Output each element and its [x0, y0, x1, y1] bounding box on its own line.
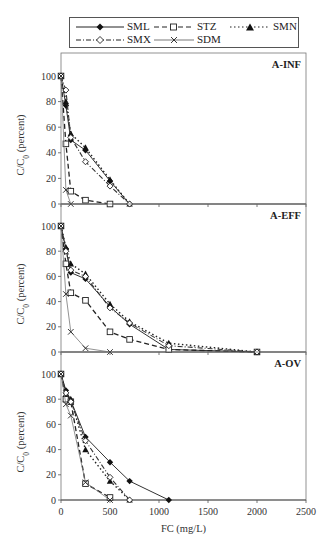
y-axis-label: C/C0 (percent): [15, 114, 31, 176]
data-point-marker: [107, 329, 113, 335]
y-tick-label: 60: [46, 271, 56, 282]
panel-label: A-EFF: [270, 210, 301, 221]
panel-a-inf: 020406080100C/C0 (percent)A-INF: [15, 53, 306, 210]
y-tick-label: 0: [51, 495, 56, 506]
series-stz: [58, 223, 260, 355]
data-point-marker: [68, 413, 74, 419]
data-point-marker: [68, 188, 74, 194]
y-tick-label: 80: [46, 96, 56, 107]
data-point-marker: [82, 446, 88, 452]
series-sdm: [58, 223, 113, 355]
x-axis-label: FC (mg/L): [161, 523, 207, 535]
y-tick-label: 80: [46, 394, 56, 405]
y-tick-label: 20: [46, 173, 56, 184]
y-axis-label: C/C0 (percent): [15, 263, 31, 325]
series-line: [61, 226, 110, 352]
series-line: [61, 226, 257, 352]
y-tick-label: 40: [46, 444, 56, 455]
panel-label: A-OV: [274, 358, 301, 369]
data-point-marker: [127, 337, 133, 343]
x-tick-label: 2000: [247, 506, 267, 517]
data-point-marker: [166, 497, 172, 503]
y-tick-label: 20: [46, 469, 56, 480]
data-point-marker: [107, 474, 113, 480]
x-tick-label: 0: [59, 506, 64, 517]
series-smn: [58, 223, 260, 355]
y-tick-label: 0: [51, 347, 56, 358]
series-line: [61, 226, 257, 352]
data-point-marker: [68, 290, 74, 296]
series-line: [61, 226, 257, 352]
data-point-marker: [107, 176, 113, 182]
data-point-marker: [63, 98, 69, 104]
series-smx: [58, 371, 133, 503]
series-line: [61, 374, 130, 500]
y-tick-label: 40: [46, 296, 56, 307]
y-tick-label: 100: [41, 369, 56, 380]
plot-frame: [61, 204, 306, 352]
panel-label: A-INF: [272, 59, 301, 70]
y-tick-label: 80: [46, 246, 56, 257]
data-point-marker: [82, 144, 88, 150]
series-stz: [58, 73, 113, 207]
plot-frame: [61, 53, 306, 204]
y-tick-label: 20: [46, 321, 56, 332]
plot-frame: [61, 352, 306, 500]
series-sml: [58, 223, 260, 355]
y-axis-label: C/C0 (percent): [15, 411, 31, 473]
y-tick-label: 100: [41, 71, 56, 82]
x-tick-label: 1000: [149, 506, 169, 517]
data-point-marker: [83, 298, 89, 304]
y-tick-label: 40: [46, 147, 56, 158]
y-tick-label: 0: [51, 199, 56, 210]
y-tick-label: 60: [46, 122, 56, 133]
series-line: [61, 226, 257, 352]
x-tick-label: 1500: [198, 506, 218, 517]
series-sml: [58, 73, 133, 207]
panel-a-ov: 02040608010005001000150020002500C/C0 (pe…: [15, 352, 316, 517]
series-line: [61, 374, 130, 500]
panel-a-eff: 020406080100C/C0 (percent)A-EFF: [15, 204, 306, 358]
x-tick-label: 2500: [296, 506, 316, 517]
data-point-marker: [83, 197, 89, 203]
y-tick-label: 60: [46, 419, 56, 430]
y-tick-label: 100: [41, 221, 56, 232]
chart-figure: 020406080100C/C0 (percent)A-INF020406080…: [0, 0, 331, 551]
series-smx: [58, 223, 260, 355]
x-tick-label: 500: [103, 506, 118, 517]
